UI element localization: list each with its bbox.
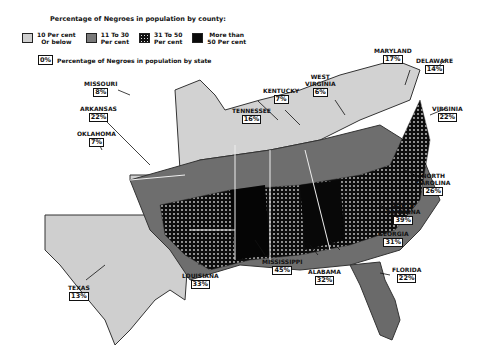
label-alabama: ALABAMA32%: [308, 268, 341, 285]
label-tennessee: TENNESSEE16%: [232, 107, 271, 124]
label-north-carolina: NORTH CAROLINA26%: [416, 172, 451, 196]
label-missouri: MISSOURI8%: [84, 80, 117, 97]
label-kentucky: KENTUCKY7%: [263, 87, 299, 104]
label-arkansas: ARKANSAS22%: [80, 105, 117, 122]
label-louisiana: LOUISIANA33%: [182, 272, 219, 289]
label-south-carolina: SOUTH CAROLINA39%: [386, 201, 421, 225]
label-oklahoma: OKLAHOMA7%: [77, 130, 116, 147]
label-florida: FLORIDA22%: [392, 266, 421, 283]
label-virginia: VIRGINIA22%: [432, 105, 463, 122]
label-mississippi: MISSISSIPPI45%: [262, 258, 302, 275]
label-delaware: DELAWARE14%: [416, 57, 453, 74]
label-texas: TEXAS13%: [68, 284, 90, 301]
label-georgia: GEORGIA31%: [378, 230, 409, 247]
label-west-virginia: WEST VIRGINIA6%: [305, 73, 336, 97]
label-maryland: MARYLAND17%: [374, 47, 412, 64]
